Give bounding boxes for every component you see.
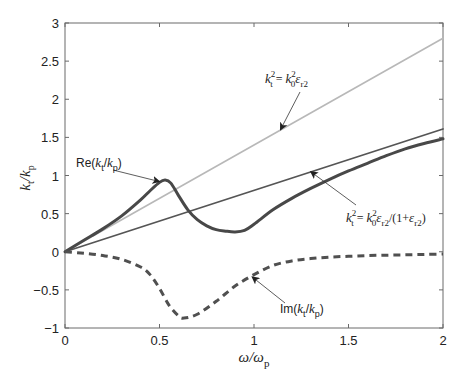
y-tick-label: −1	[44, 321, 59, 336]
y-tick-label: 0	[52, 245, 59, 260]
y-tick-label: 2	[52, 92, 59, 107]
x-axis-label-sub: p	[264, 357, 270, 369]
y-tick-label: −0.5	[33, 283, 59, 298]
re-prefix: Re(	[76, 156, 95, 170]
x-tick-label: 0.5	[150, 333, 168, 348]
y-tick-label: 2.5	[41, 54, 59, 69]
im-close: )	[320, 302, 324, 316]
x-tick-label: 1	[250, 333, 257, 348]
y-axis-label-sub2: p	[25, 165, 36, 170]
x-tick-label: 2	[439, 333, 446, 348]
eq2-sub-r2: r2	[381, 218, 389, 228]
y-axis-label: kt/kp	[17, 165, 36, 190]
eq1-sub-r2: r2	[300, 79, 308, 89]
im-prefix: Im(	[280, 302, 297, 316]
y-tick-label: 1	[52, 169, 59, 184]
x-tick-label: 0	[61, 333, 68, 348]
chart-figure: 00.511.52 −1−0.500.511.522.53 ω/ωp kt/kp…	[0, 0, 463, 380]
re-close: )	[118, 156, 122, 170]
eq2-close: )	[422, 211, 426, 225]
eq1-equals: =	[273, 72, 286, 86]
plot-area-frame	[65, 23, 443, 328]
y-tick-label: 0.5	[41, 207, 59, 222]
x-axis-label: ω/ωp	[239, 349, 270, 369]
eq2-equals: =	[354, 211, 367, 225]
x-axis-label-main: ω/ω	[239, 349, 264, 365]
eq2-mid: /(1+	[389, 211, 409, 225]
y-tick-label: 1.5	[41, 130, 59, 145]
eq2-sub-r2b: r2	[414, 218, 422, 228]
x-tick-label: 1.5	[339, 333, 357, 348]
y-tick-label: 3	[52, 16, 59, 31]
